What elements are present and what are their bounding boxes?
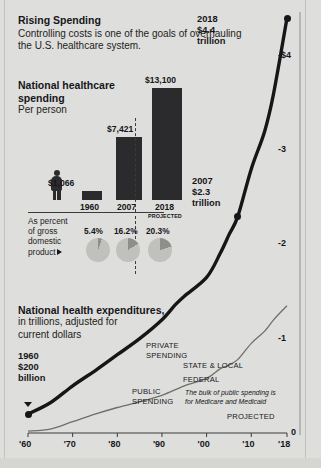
x-tick-00: '00: [198, 439, 210, 449]
x-tick-70: '70: [64, 439, 76, 449]
private-spending-label: PRIVATE SPENDING: [146, 341, 187, 360]
medicare-note-line1: The bulk of public spending is: [185, 389, 276, 396]
public-spending-label: PUBLIC SPENDING: [132, 387, 173, 406]
gdp-label-line1: As percent: [28, 216, 68, 226]
x-tick-60: '60: [19, 439, 31, 449]
gdp-pie-2007: [116, 238, 140, 262]
callout-2018: 2018 $4.4 trillion: [197, 14, 225, 48]
bar-1960: [82, 191, 102, 200]
callout-2007-value: $2.3: [192, 187, 210, 197]
callout-1960-value: $200: [18, 362, 39, 372]
frame-left-border: [4, 0, 5, 458]
y-tick-1: -1: [278, 333, 286, 343]
callout-1960-year: 1960: [18, 351, 39, 361]
private-spending-label-line2: SPENDING: [146, 351, 187, 360]
projection-divider-upper: [135, 118, 136, 212]
gdp-label-line2: of gross: [28, 226, 58, 236]
data-point-1960: [25, 411, 32, 418]
y-tick-0: 0: [291, 427, 296, 437]
callout-2018-year: 2018: [197, 14, 218, 24]
line-section-heading: National health expenditures, in trillio…: [18, 304, 178, 341]
person-icon-left-leg: [53, 189, 57, 200]
gdp-row-rule: [28, 212, 164, 213]
public-spending-label-line1: PUBLIC: [132, 387, 161, 396]
bottom-strip: [0, 458, 321, 468]
projected-label: PROJECTED: [227, 412, 275, 422]
federal-label: FEDERAL: [183, 375, 219, 385]
infographic-root: Rising Spending Controlling costs is one…: [0, 0, 321, 468]
public-spending-label-line2: SPENDING: [132, 397, 173, 406]
bar-projected-note: PROJECTED: [148, 213, 182, 219]
callout-1960: 1960 $200 billion: [18, 351, 45, 385]
x-tick-90: '90: [153, 439, 165, 449]
data-point-2007: [234, 213, 241, 220]
bar-value-1960: $1,066: [48, 178, 74, 188]
x-tick-10: '10: [242, 439, 254, 449]
line-title-line3: current dollars: [18, 329, 178, 341]
callout-2007: 2007 $2.3 trillion: [192, 176, 220, 210]
gdp-percent-1960: 5.4%: [84, 226, 103, 236]
per-person-bar-chart: [60, 88, 190, 208]
gdp-percent-2007: 16.2%: [114, 226, 138, 236]
frame-right-border: [305, 0, 306, 458]
y-tick-2: -2: [278, 238, 286, 248]
bar-year-2018: 2018: [155, 202, 174, 212]
callout-2018-value: $4.4: [197, 25, 215, 35]
state-local-label: STATE & LOCAL: [183, 361, 243, 371]
medicare-note: The bulk of public spending is for Medic…: [185, 389, 276, 406]
gdp-row-label: As percent of gross domestic product: [28, 216, 76, 257]
line-title-line1: National health expenditures,: [18, 304, 178, 316]
arrow-right-icon: [57, 249, 62, 255]
gdp-pie-1960: [86, 238, 110, 262]
bar-value-2007: $7,421: [107, 124, 133, 134]
gdp-label-line3: domestic: [28, 236, 61, 246]
line-title-line2: in trillions, adjusted for: [18, 316, 178, 328]
y-tick-4: -$4: [278, 50, 291, 60]
bar-2007: [116, 137, 142, 200]
bar-year-1960: 1960: [80, 202, 99, 212]
x-tick-18: '18: [278, 439, 290, 449]
callout-pointer-1960-icon: [24, 402, 32, 407]
bar-value-2018: $13,100: [145, 75, 176, 85]
callout-2007-year: 2007: [192, 176, 213, 186]
bar-2018: [152, 88, 182, 200]
x-tick-80: '80: [108, 439, 120, 449]
callout-1960-unit: billion: [18, 373, 45, 383]
data-point-2018: [284, 15, 291, 22]
bar-year-2007: 2007: [117, 202, 136, 212]
callout-2018-unit: trillion: [197, 36, 225, 46]
private-spending-label-line1: PRIVATE: [146, 341, 179, 350]
gdp-pie-2018: [148, 238, 172, 262]
medicare-note-line2: for Medicare and Medicaid: [185, 398, 266, 405]
y-tick-3: -3: [278, 144, 286, 154]
gdp-label-line4: product: [28, 247, 56, 257]
callout-2007-unit: trillion: [192, 198, 220, 208]
gdp-percent-2018: 20.3%: [146, 226, 170, 236]
